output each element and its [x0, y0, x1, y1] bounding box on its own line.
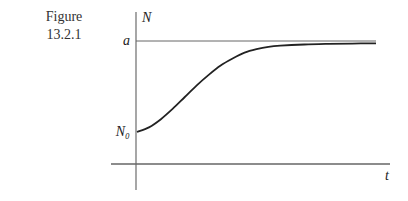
chart: NtaN₀ — [0, 0, 408, 201]
y-tick-label-0: a — [123, 33, 130, 48]
series-line-0 — [137, 43, 376, 132]
marks — [137, 43, 376, 132]
y-axis-label: N — [141, 10, 152, 25]
x-axis-label: t — [385, 168, 390, 183]
labels: NtaN₀ — [115, 10, 390, 183]
axes — [111, 12, 390, 190]
y-tick-label-1: N₀ — [115, 124, 130, 139]
